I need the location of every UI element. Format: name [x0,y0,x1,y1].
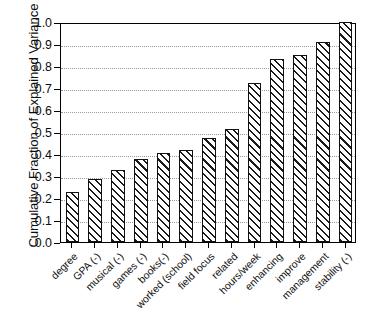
y-axis-tick-label: 0.5 [12,127,52,139]
y-axis-tick-label: 0.9 [12,39,52,51]
y-axis-tick-mark [54,243,60,244]
plot-area [60,23,356,243]
x-axis-tick-mark [71,243,72,248]
y-axis-tick-label: 0.7 [12,83,52,95]
bar [339,22,353,242]
y-axis-tick-label: 0.2 [12,193,52,205]
bar [66,192,80,242]
bar [270,59,284,242]
y-axis-tick-label: 0.1 [12,215,52,227]
y-axis-tick-label: 0.6 [12,105,52,117]
y-axis-tick-label: 0.4 [12,149,52,161]
chart-figure: Cumulative Fraction of Explained Varianc… [0,0,383,312]
y-axis-tick-label: 1.0 [12,17,52,29]
bar [316,42,330,242]
y-axis-tick-label: 0.8 [12,61,52,73]
y-axis-tick-label: 0.3 [12,171,52,183]
bar-series [61,24,355,242]
y-axis-tick-label: 0.0 [12,237,52,249]
bar [248,83,262,242]
